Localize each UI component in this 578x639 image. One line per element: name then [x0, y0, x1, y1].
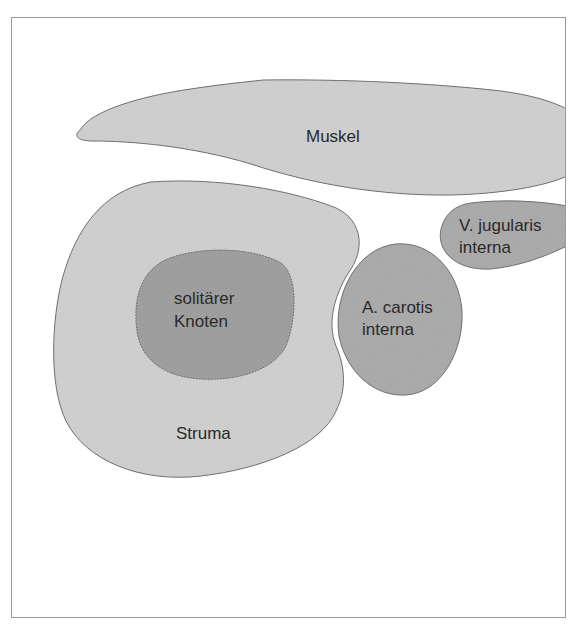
nodule-label-line2: Knoten [174, 312, 228, 331]
carotid-label-line2: interna [362, 320, 415, 339]
muscle-label: Muskel [306, 127, 360, 146]
jugular-shape [440, 201, 566, 269]
carotid-label-line1: A. carotis [362, 298, 433, 317]
struma-label: Struma [176, 424, 231, 443]
jugular-label-line1: V. jugularis [459, 216, 542, 235]
jugular-label-line2: interna [459, 238, 512, 257]
diagram-canvas: Muskel solitärer Knoten Struma A. caroti… [12, 18, 566, 618]
nodule-label-line1: solitärer [174, 289, 235, 308]
diagram-frame: Muskel solitärer Knoten Struma A. caroti… [11, 17, 566, 618]
